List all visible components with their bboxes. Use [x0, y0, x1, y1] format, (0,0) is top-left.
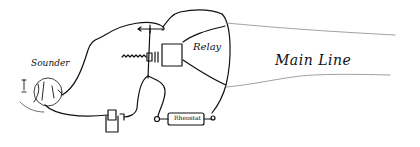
wire-sounder-battery: [45, 105, 108, 116]
main-line-label: Main Line: [275, 52, 351, 68]
resistor-label: Rheostat: [174, 114, 201, 121]
wire-armature-down: [124, 76, 148, 117]
battery: [106, 110, 118, 132]
wire-contact-to-relay: [163, 10, 222, 27]
spring: [122, 55, 146, 57]
relay-label: Relay: [193, 41, 221, 52]
circuit-diagram: [0, 0, 420, 147]
relay-coil: [162, 44, 182, 66]
main-line-lower: [226, 74, 390, 87]
main-line-upper: [226, 23, 395, 35]
wire-armature-resistor: [148, 76, 165, 117]
sounder-label: Sounder: [31, 58, 70, 68]
relay-loop: [183, 14, 230, 113]
